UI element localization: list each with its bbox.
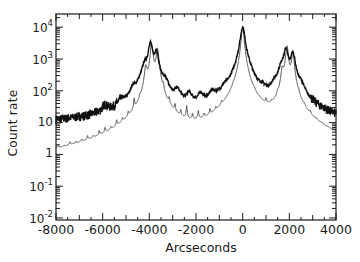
x-tick-label: -6000 bbox=[78, 222, 128, 237]
x-tick-label: -8000 bbox=[31, 222, 81, 237]
x-tick-label: 2000 bbox=[264, 222, 314, 237]
axis-ticks bbox=[56, 14, 336, 220]
x-tick-label: -4000 bbox=[124, 222, 174, 237]
y-tick-label: 103 bbox=[32, 51, 53, 67]
y-tick-label: 1 bbox=[45, 146, 53, 160]
x-axis-label: Arcseconds bbox=[156, 240, 246, 255]
y-tick-label: 104 bbox=[32, 19, 53, 35]
y-tick-label: 10 bbox=[38, 115, 53, 129]
x-tick-label: -2000 bbox=[171, 222, 221, 237]
model-curve bbox=[56, 27, 336, 148]
y-axis-label: Count rate bbox=[6, 88, 20, 158]
plot-frame bbox=[56, 14, 336, 220]
x-tick-label: 4000 bbox=[311, 222, 360, 237]
x-tick-label: 0 bbox=[218, 222, 268, 237]
y-tick-label: 102 bbox=[32, 83, 53, 99]
measured-curve bbox=[56, 27, 336, 125]
y-tick-label: 10-1 bbox=[29, 178, 53, 194]
